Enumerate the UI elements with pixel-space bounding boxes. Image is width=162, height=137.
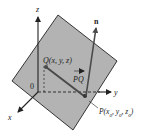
z-axis-label: z — [35, 5, 40, 14]
plane-diagram: z y x 0 n Q(x, y, z) PQ P(x0, y0, z0) — [0, 0, 162, 137]
origin-label: 0 — [30, 82, 34, 91]
point-p-label: P(x0, y0, z0) — [98, 107, 134, 118]
vector-pq-label: PQ — [72, 75, 84, 84]
point-p-suffix: ) — [130, 107, 134, 116]
y-axis-label: y — [113, 88, 118, 97]
p-leader-line — [89, 101, 98, 108]
normal-label: n — [94, 17, 99, 26]
x-axis — [18, 92, 38, 112]
point-q — [44, 65, 48, 69]
point-p-prefix: P(x — [98, 107, 110, 116]
x-axis-label: x — [7, 113, 12, 122]
point-q-label: Q(x, y, z) — [43, 56, 72, 65]
